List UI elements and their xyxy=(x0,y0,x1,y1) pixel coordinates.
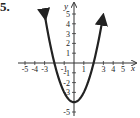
x-tick-label: -4 xyxy=(31,65,38,74)
y-tick-label: 1 xyxy=(66,49,70,58)
y-tick-label: -2 xyxy=(63,79,70,88)
x-tick-label: 5 xyxy=(121,65,125,74)
y-axis-label: y xyxy=(63,1,68,11)
x-tick-label: 1 xyxy=(82,65,86,74)
parabola-chart: -5-4-3-1134554321-1-2-3-5 x y xyxy=(0,0,140,118)
y-tick-label: 5 xyxy=(66,10,70,19)
y-tick-label: 2 xyxy=(66,39,70,48)
axes xyxy=(18,3,136,116)
y-tick-label: -1 xyxy=(63,69,70,78)
x-tick-label: 4 xyxy=(111,65,115,74)
x-tick-label: -5 xyxy=(22,65,29,74)
x-tick-label: -3 xyxy=(41,65,48,74)
y-tick-label: 3 xyxy=(66,30,70,39)
x-tick-label: 3 xyxy=(101,65,105,74)
y-tick-label: 4 xyxy=(66,20,70,29)
y-tick-label: -5 xyxy=(63,108,70,117)
x-axis-label: x xyxy=(130,63,135,73)
